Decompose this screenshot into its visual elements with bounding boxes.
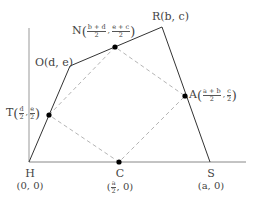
- label-c: C (a2, 0): [104, 168, 136, 195]
- label-o-text: O(d, e): [35, 56, 73, 69]
- label-n: N(b + d2,e + c2): [72, 24, 135, 39]
- n-y-fraction: e + c2: [112, 24, 130, 39]
- n-x-denominator: 2: [87, 32, 106, 39]
- label-c-coord: (a2, 0): [104, 180, 136, 195]
- c-tail: , 0): [117, 181, 134, 192]
- a-x-denominator: 2: [203, 96, 222, 103]
- point-a: [182, 93, 187, 98]
- c-x-fraction: a2: [111, 180, 116, 195]
- label-o: O(d, e): [35, 57, 73, 68]
- label-r-text: R(b, c): [152, 10, 189, 23]
- label-n-letter: N: [72, 24, 82, 37]
- label-s-letter: S: [194, 168, 228, 179]
- label-h-letter: H: [14, 168, 46, 179]
- point-n: [112, 44, 117, 49]
- t-x-denominator: 2: [19, 114, 24, 121]
- label-s-coord: (a, 0): [194, 181, 228, 191]
- point-c: [116, 159, 121, 164]
- a-x-fraction: a + b2: [203, 88, 222, 103]
- a-y-fraction: c2: [227, 88, 232, 103]
- t-y-fraction: e2: [30, 106, 35, 121]
- n-y-denominator: 2: [112, 32, 130, 39]
- geometry-diagram: R(b, c) O(d, e) N(b + d2,e + c2) A(a + b…: [0, 0, 261, 204]
- label-r: R(b, c): [152, 11, 189, 22]
- a-y-denominator: 2: [227, 96, 232, 103]
- point-t: [46, 112, 51, 117]
- label-t: T(d2,e2): [6, 106, 40, 121]
- c-open-paren: (: [107, 181, 111, 192]
- label-s: S (a, 0): [194, 168, 228, 191]
- t-y-denominator: 2: [30, 114, 35, 121]
- c-x-denominator: 2: [111, 188, 116, 195]
- n-x-fraction: b + d2: [87, 24, 106, 39]
- label-h: H (0, 0): [14, 168, 46, 191]
- label-h-coord: (0, 0): [14, 181, 46, 191]
- label-c-letter: C: [104, 168, 136, 179]
- label-a: A(a + b2,c2): [189, 88, 237, 103]
- label-a-letter: A: [189, 88, 197, 101]
- t-x-fraction: d2: [19, 106, 24, 121]
